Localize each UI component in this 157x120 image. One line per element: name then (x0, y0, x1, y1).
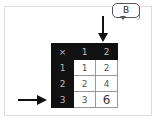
table-row: 2 2 4 (52, 76, 118, 92)
table-header-row: × 1 2 (52, 44, 118, 60)
table-cell: 1 (74, 60, 96, 76)
table-cell: 2 (74, 76, 96, 92)
table-cell: 3 (74, 92, 96, 108)
table-cell: 2 (96, 60, 118, 76)
row-header: 3 (52, 92, 74, 108)
down-arrow-icon (102, 16, 104, 34)
down-arrow-head-icon (98, 33, 108, 42)
right-arrow-head-icon (37, 95, 47, 105)
speech-bubble-tail (120, 16, 126, 20)
multiplication-table: × 1 2 1 1 2 2 2 4 3 3 6 (51, 43, 118, 108)
corner-cell: × (52, 44, 74, 60)
highlighted-cell: 6 (96, 92, 118, 108)
speech-bubble-label: B (112, 3, 140, 18)
table-row: 3 3 6 (52, 92, 118, 108)
table-row: 1 1 2 (52, 60, 118, 76)
right-arrow-icon (18, 99, 38, 101)
column-header: 1 (74, 44, 96, 60)
row-header: 2 (52, 76, 74, 92)
row-header: 1 (52, 60, 74, 76)
column-header: 2 (96, 44, 118, 60)
table-cell: 4 (96, 76, 118, 92)
